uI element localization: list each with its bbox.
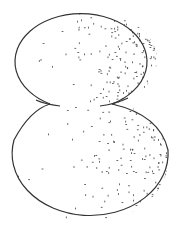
figure-eight-illustration (0, 0, 179, 236)
top-lobe (15, 12, 159, 109)
top-lobe-outline (15, 14, 147, 104)
bottom-lobe (12, 98, 169, 222)
